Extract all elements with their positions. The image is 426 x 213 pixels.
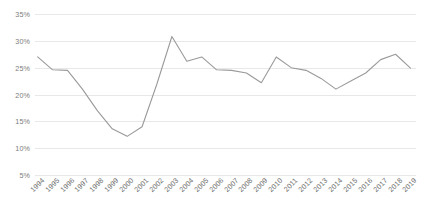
y-axis: 5%10%15%20%25%30%35% [0,0,34,213]
y-axis-tick-label: 25% [15,63,30,72]
y-axis-tick-label: 15% [15,117,30,126]
line-chart: 5%10%15%20%25%30%35% 1994199519961997199… [0,0,426,213]
y-axis-tick-label: 10% [15,144,30,153]
y-axis-tick-label: 30% [15,36,30,45]
y-axis-tick-label: 35% [15,10,30,19]
x-axis: 1994199519961997199819992000200120022003… [35,176,416,213]
y-axis-tick-label: 20% [15,90,30,99]
y-axis-tick-label: 5% [19,171,30,180]
